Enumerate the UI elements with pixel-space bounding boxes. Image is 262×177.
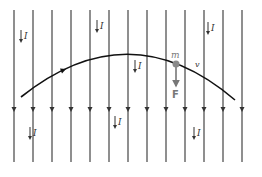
current-label-6: I <box>113 116 122 129</box>
arrow-down-icon <box>88 107 93 112</box>
arrow-down-icon <box>31 107 36 112</box>
current-labels: IIIIIII <box>19 20 215 140</box>
arrow-down-icon <box>12 107 17 112</box>
current-symbol: I <box>137 61 142 71</box>
arrow-down-icon <box>19 39 23 43</box>
mass-label: m <box>171 50 180 60</box>
current-label-1: I <box>19 30 28 43</box>
arrow-down-icon <box>133 69 137 73</box>
force-label: F <box>172 89 179 100</box>
arrow-down-icon <box>192 136 196 140</box>
arrow-down-icon <box>221 107 226 112</box>
current-direction-arrows <box>12 107 245 112</box>
velocity-label: v <box>195 60 200 69</box>
mass-particle <box>173 61 180 68</box>
current-symbol: I <box>32 128 37 138</box>
arrow-down-icon <box>164 107 169 112</box>
current-label-4: I <box>206 22 215 35</box>
arrow-down-icon <box>202 107 207 112</box>
arrow-down-icon <box>107 107 112 112</box>
current-label-3: I <box>133 60 142 73</box>
arrow-down-icon <box>183 107 188 112</box>
arrow-down-icon <box>126 107 131 112</box>
current-label-7: I <box>192 127 201 140</box>
arrow-down-icon <box>69 107 74 112</box>
current-symbol: I <box>99 21 104 31</box>
current-label-2: I <box>95 20 104 33</box>
arrow-down-icon <box>50 107 55 112</box>
current-symbol: I <box>210 23 215 33</box>
arrow-down-icon <box>113 125 117 129</box>
arrow-down-icon <box>28 136 32 140</box>
current-symbol: I <box>117 117 122 127</box>
arrow-down-icon <box>145 107 150 112</box>
arrow-down-icon <box>206 31 210 35</box>
arrow-down-icon <box>95 29 99 33</box>
current-symbol: I <box>196 128 201 138</box>
diagram-canvas: IIIIIII m F v <box>0 0 262 177</box>
current-symbol: I <box>23 31 28 41</box>
arrow-down-icon <box>240 107 245 112</box>
